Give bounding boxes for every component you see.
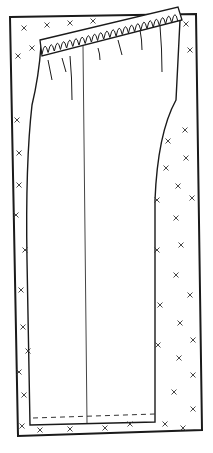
pattern-diagram [0,0,213,453]
pattern-drawing [0,0,213,453]
trouser-pattern-outline [27,20,180,425]
